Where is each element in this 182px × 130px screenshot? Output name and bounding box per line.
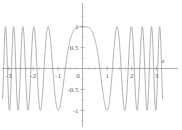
chart-figure: -3 -2 -1 0 1 2 3 1 0.5 -0.5 -1 z — [0, 0, 182, 130]
x-tick-label-3: 3 — [155, 72, 159, 80]
y-tick-label--1: -1 — [73, 107, 79, 115]
x-tick-label--3: -3 — [6, 72, 12, 80]
x-tick-label-1: 1 — [105, 72, 109, 80]
x-axis-label: z — [161, 57, 165, 65]
x-tick-label--2: -2 — [30, 72, 36, 80]
origin-label: 0 — [76, 72, 80, 80]
x-tick-label--1: -1 — [55, 72, 61, 80]
y-tick-label-1: 1 — [75, 23, 79, 31]
plot-svg: -3 -2 -1 0 1 2 3 1 0.5 -0.5 -1 z — [0, 0, 182, 130]
y-tick-label--0-5: -0.5 — [67, 86, 79, 94]
y-tick-label-0-5: 0.5 — [70, 44, 79, 52]
x-tick-label-2: 2 — [130, 72, 134, 80]
